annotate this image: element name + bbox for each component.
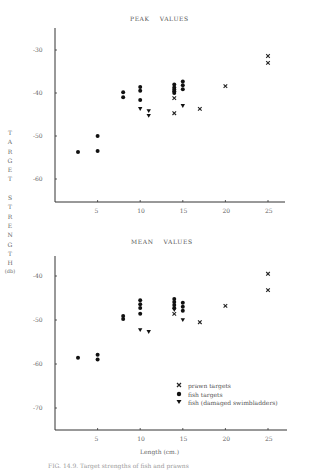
data-point bbox=[172, 91, 176, 95]
data-point bbox=[172, 96, 176, 100]
triangle-marker-icon bbox=[176, 399, 182, 408]
data-point bbox=[172, 308, 176, 312]
data-point bbox=[138, 328, 142, 332]
data-point bbox=[121, 95, 125, 99]
data-point bbox=[266, 54, 270, 58]
data-point bbox=[147, 114, 151, 118]
data-point bbox=[138, 298, 142, 302]
x-tick-label: 25 bbox=[265, 435, 273, 442]
legend: prawn targets fish targets fish (damaged… bbox=[176, 382, 278, 408]
data-point bbox=[76, 150, 80, 154]
x-tick-label: 15 bbox=[180, 435, 188, 442]
legend-label: prawn targets bbox=[188, 382, 231, 391]
data-point bbox=[172, 111, 176, 115]
y-tick-label: -60 bbox=[33, 360, 43, 367]
x-tick-label: 10 bbox=[137, 435, 145, 442]
data-point bbox=[224, 304, 228, 308]
data-point bbox=[138, 312, 142, 316]
data-point bbox=[121, 90, 125, 94]
data-point bbox=[198, 320, 202, 324]
data-point bbox=[147, 330, 151, 334]
data-point bbox=[181, 301, 185, 305]
data-point bbox=[147, 109, 151, 113]
circle-marker-icon bbox=[176, 391, 182, 400]
data-point bbox=[138, 98, 142, 102]
data-point bbox=[96, 353, 100, 357]
y-tick-label: -40 bbox=[33, 272, 43, 279]
data-point bbox=[96, 149, 100, 153]
data-point bbox=[138, 306, 142, 310]
x-axis-label: Length (cm.) bbox=[140, 448, 179, 455]
x-marker-icon bbox=[176, 382, 182, 391]
data-point bbox=[224, 84, 228, 88]
y-tick-label: -30 bbox=[33, 46, 43, 53]
data-point bbox=[181, 318, 185, 322]
data-point bbox=[76, 356, 80, 360]
data-point bbox=[181, 305, 185, 309]
y-tick-label: -60 bbox=[33, 175, 43, 182]
legend-item-prawn: prawn targets bbox=[176, 382, 278, 391]
data-point bbox=[138, 302, 142, 306]
x-tick-label: 5 bbox=[95, 207, 99, 214]
x-tick-label: 20 bbox=[222, 435, 230, 442]
x-tick-label: 25 bbox=[265, 207, 273, 214]
x-tick-label: 20 bbox=[222, 207, 230, 214]
y-tick-label: -70 bbox=[33, 404, 43, 411]
data-point bbox=[138, 107, 142, 111]
data-point bbox=[198, 107, 202, 111]
data-point bbox=[121, 317, 125, 321]
data-point bbox=[181, 83, 185, 87]
data-point bbox=[181, 309, 185, 313]
x-tick-label: 15 bbox=[180, 207, 188, 214]
legend-item-damaged: fish (damaged swimbladders) bbox=[176, 399, 278, 408]
data-point bbox=[266, 288, 270, 292]
data-point bbox=[181, 79, 185, 83]
data-point bbox=[266, 61, 270, 65]
y-tick-label: -50 bbox=[33, 132, 43, 139]
x-tick-label: 5 bbox=[95, 435, 99, 442]
data-point bbox=[96, 134, 100, 138]
data-point bbox=[172, 312, 176, 316]
data-point bbox=[138, 85, 142, 89]
legend-item-fish: fish targets bbox=[176, 391, 278, 400]
y-tick-label: -50 bbox=[33, 316, 43, 323]
data-point bbox=[138, 89, 142, 93]
data-point bbox=[96, 358, 100, 362]
legend-label: fish targets bbox=[188, 391, 223, 400]
figure-caption: FIG. 14.9. Target strengths of fish and … bbox=[48, 462, 189, 469]
data-point bbox=[266, 272, 270, 276]
data-point bbox=[181, 104, 185, 108]
data-point bbox=[181, 87, 185, 91]
legend-label: fish (damaged swimbladders) bbox=[188, 399, 278, 408]
y-tick-label: -40 bbox=[33, 89, 43, 96]
x-tick-label: 10 bbox=[137, 207, 145, 214]
